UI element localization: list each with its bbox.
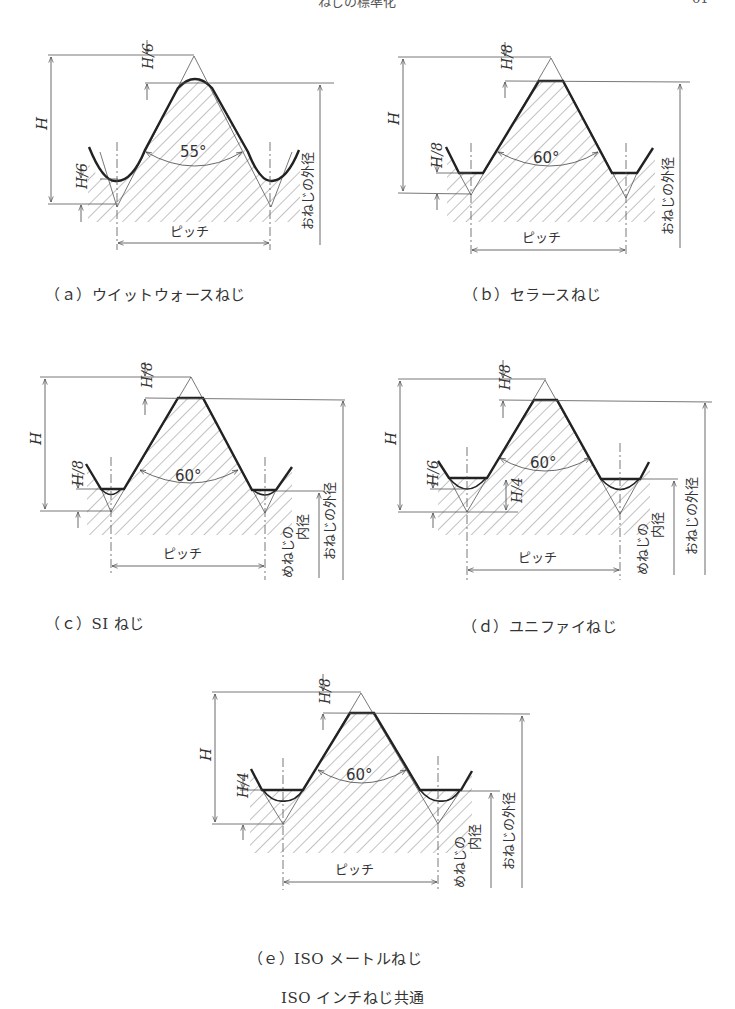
svg-text:H: H [385, 111, 403, 126]
svg-text:ピッチ: ピッチ [170, 224, 209, 239]
svg-text:おねじの外径: おねじの外径 [660, 157, 675, 235]
svg-text:めねじの: めねじの [635, 523, 650, 575]
svg-text:H/4: H/4 [509, 477, 525, 504]
figure-d-unified: H H/8 H/6 H/4 60° ピッチ めねじの 内径 おねじの外径 [382, 360, 712, 580]
caption-e: （ｅ）ISO メートルねじ ISO インチねじ共通 [237, 929, 425, 1009]
svg-text:H: H [197, 747, 215, 762]
svg-text:めねじの: めねじの [280, 526, 295, 578]
svg-text:めねじの: めねじの [452, 836, 467, 888]
svg-text:H/8: H/8 [317, 678, 333, 705]
svg-text:H/8: H/8 [139, 362, 155, 389]
svg-text:H/8: H/8 [497, 364, 513, 391]
svg-text:H: H [27, 431, 45, 446]
svg-text:60°: 60° [533, 149, 560, 167]
figure-e-iso: H H/8 H/4 60° ピッチ めねじの 内径 おねじの外径 [197, 674, 530, 890]
figure-b-sellers: H H/8 H/8 60° ピッチ おねじの外径 [385, 42, 690, 255]
svg-text:H/4: H/4 [235, 772, 251, 799]
svg-text:H/6: H/6 [140, 43, 156, 70]
svg-text:60°: 60° [175, 467, 202, 485]
caption-c: （ｃ）SI ねじ [45, 612, 145, 633]
figure-c-si: H H/8 H/8 60° ピッチ めねじの 内径 おねじの外径 [27, 362, 345, 580]
svg-text:H/6: H/6 [74, 163, 90, 190]
svg-text:ピッチ: ピッチ [335, 862, 374, 877]
svg-text:H/6: H/6 [425, 460, 441, 487]
svg-text:内径: 内径 [650, 512, 665, 538]
svg-text:60°: 60° [346, 766, 373, 784]
svg-text:ピッチ: ピッチ [518, 550, 557, 565]
svg-text:H/8: H/8 [429, 142, 445, 169]
svg-text:おねじの外径: おねじの外径 [300, 152, 315, 230]
svg-text:H/8: H/8 [499, 44, 515, 71]
label-H: H [33, 116, 51, 131]
svg-text:内径: 内径 [295, 514, 310, 540]
svg-text:おねじの外径: おねじの外径 [322, 482, 337, 560]
svg-text:ピッチ: ピッチ [522, 230, 561, 245]
svg-text:ピッチ: ピッチ [163, 546, 202, 561]
figure-a-whitworth: H H/6 H/6 55° ピッチ おねじの外径 [33, 40, 334, 250]
svg-text:おねじの外径: おねじの外径 [684, 477, 699, 555]
svg-text:内径: 内径 [467, 824, 482, 850]
svg-text:60°: 60° [530, 454, 557, 472]
caption-e-line2: ISO インチねじ共通 [237, 986, 425, 1007]
svg-text:H/8: H/8 [70, 460, 86, 487]
caption-b: （ｂ）セラースねじ [463, 283, 602, 304]
svg-text:おねじの外径: おねじの外径 [501, 792, 516, 870]
caption-e-line1: （ｅ）ISO メートルねじ [248, 950, 423, 968]
caption-a: （ａ）ウイットウォースねじ [45, 283, 246, 304]
caption-d: （ｄ）ユニファイねじ [462, 615, 617, 636]
angle-label: 55° [180, 143, 207, 161]
svg-text:H: H [382, 431, 400, 446]
